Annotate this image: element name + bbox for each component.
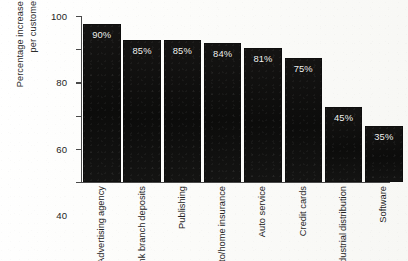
x-axis-category: Auto service (244, 186, 282, 261)
bar-chart: Percentage increase in profits per custo… (0, 0, 408, 261)
bar-value-label: 84% (204, 48, 242, 59)
x-axis-category: Auto/homeinsurance (204, 186, 242, 261)
x-axis-category-text: Bank branchdeposits (137, 186, 148, 261)
x-axis-category-text: Auto/homeinsurance (217, 186, 228, 261)
y-tick-mark: 40 (76, 116, 82, 117)
x-axis-category-text: Industrialdistribution (338, 186, 349, 261)
y-tick-label: 100 (51, 11, 67, 22)
bar[interactable]: 81% (244, 48, 282, 182)
x-axis-category-line: Auto service (257, 186, 268, 237)
x-axis-category-text: Advertisingagency (96, 186, 107, 261)
y-tick-mark: 60 (76, 82, 82, 83)
y-axis-title-line-2: per customer (27, 0, 39, 52)
x-axis-line (81, 182, 390, 183)
y-axis-title: Percentage increase in profits per custo… (9, 0, 43, 123)
bar[interactable]: 85% (123, 40, 161, 182)
x-axis-category-text: Software (378, 186, 389, 223)
x-axis-category: Industrialdistribution (325, 186, 363, 261)
y-axis-title-line-1: Percentage increase in profits (14, 0, 26, 87)
x-axis-category-line: distribution (338, 186, 349, 231)
x-axis-category: Advertisingagency (83, 186, 121, 261)
x-axis-category-line: Auto/home (217, 228, 228, 261)
x-axis-category-line: insurance (217, 186, 228, 226)
x-axis-category-line: Software (378, 186, 389, 223)
x-axis-category-line: Bank branch (137, 223, 148, 261)
x-axis-category-line: Industrial (338, 233, 349, 261)
bar-value-label: 85% (164, 45, 202, 56)
y-tick-mark: 20 (76, 149, 82, 150)
x-axis-category-line: Credit cards (298, 186, 309, 236)
bar[interactable]: 85% (164, 40, 202, 182)
bar-value-label: 45% (325, 112, 363, 123)
x-axis-category-text: Credit cards (298, 186, 309, 236)
bar[interactable]: 90% (83, 24, 121, 182)
bar[interactable]: 75% (285, 58, 323, 183)
bar-value-label: 85% (123, 45, 161, 56)
x-axis-category-text: Publishing (177, 186, 188, 229)
x-axis-category-text: Auto service (257, 186, 268, 237)
y-tick-label: 60 (56, 143, 67, 154)
bar[interactable]: 45% (325, 107, 363, 182)
x-axis-category-line: agency (96, 186, 107, 216)
bar-value-label: 35% (365, 131, 403, 142)
y-tick-mark: 0 (76, 182, 82, 183)
x-axis-category: Software (365, 186, 403, 261)
y-tick-label: 80 (56, 77, 67, 88)
bar[interactable]: 35% (365, 126, 403, 182)
x-axis-category-line: Advertising (96, 218, 107, 261)
x-axis-category: Bank branchdeposits (123, 186, 161, 261)
y-tick-mark: 80 (76, 49, 82, 50)
y-tick-label: 40 (56, 210, 67, 221)
bar-value-label: 81% (244, 53, 282, 64)
bar[interactable]: 84% (204, 43, 242, 182)
x-axis-category-line: Publishing (177, 186, 188, 229)
y-tick-mark: 100 (76, 16, 82, 17)
x-axis-category-line: deposits (137, 186, 148, 221)
x-axis-category: Credit cards (285, 186, 323, 261)
x-axis-category: Publishing (164, 186, 202, 261)
bar-value-label: 75% (285, 63, 323, 74)
plot-area: 020406080100 90%85%85%84%81%75%45%35% Ad… (82, 16, 390, 182)
bar-value-label: 90% (83, 29, 121, 40)
